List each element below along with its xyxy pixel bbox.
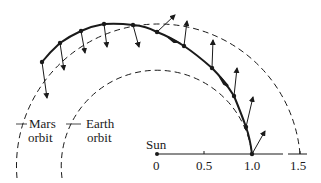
- path-direction-arrow: [168, 37, 177, 42]
- tick-label-0: 0: [153, 158, 160, 173]
- trajectory-path: [42, 24, 252, 154]
- sun-dot: [155, 152, 159, 156]
- tick-label-1-5: 1.5: [290, 158, 306, 173]
- earth-orbit-label-2: orbit: [87, 130, 112, 145]
- tick-label-1-0: 1.0: [244, 158, 260, 173]
- tick-label-0-5: 0.5: [196, 158, 212, 173]
- vector-arrows: [42, 15, 265, 154]
- orbit-diagram: Mars orbit Earth orbit Sun 0 0.5 1.0 1.5: [0, 0, 321, 183]
- path-direction-arrow: [220, 77, 228, 86]
- earth-orbit-label-1: Earth: [86, 116, 115, 131]
- mars-orbit-label-1: Mars: [29, 116, 56, 131]
- mars-orbit-label-2: orbit: [28, 130, 53, 145]
- sun-label: Sun: [146, 137, 167, 152]
